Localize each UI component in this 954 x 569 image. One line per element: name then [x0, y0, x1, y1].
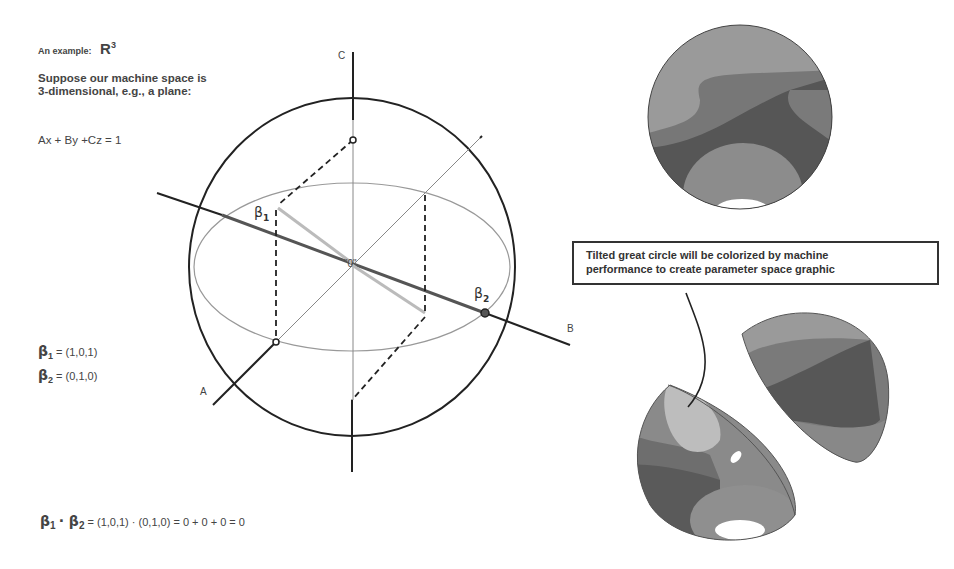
projection-lines [276, 140, 425, 400]
beta1-vector [278, 208, 352, 263]
callout-line-1: Tilted great circle will be colorized by… [586, 248, 937, 262]
colorized-sphere-top [640, 20, 840, 247]
beta1-diagram-label: β1 [254, 204, 269, 223]
axis-a-label: A [200, 386, 207, 397]
point-a-projection [273, 339, 279, 345]
axis-a [213, 136, 482, 405]
callout-box: Tilted great circle will be colorized by… [572, 241, 939, 285]
axis-b-label: B [567, 323, 574, 334]
point-c-projection [350, 137, 356, 143]
callout-line-2: performance to create parameter space gr… [586, 262, 937, 276]
axis-c-label: C [338, 50, 345, 61]
beta2-diagram-label: β2 [474, 285, 489, 304]
origin-label: "0" [344, 258, 357, 269]
beta1-neg-vector [352, 265, 425, 313]
callout-leader-line [686, 293, 705, 407]
point-beta2 [481, 309, 489, 317]
